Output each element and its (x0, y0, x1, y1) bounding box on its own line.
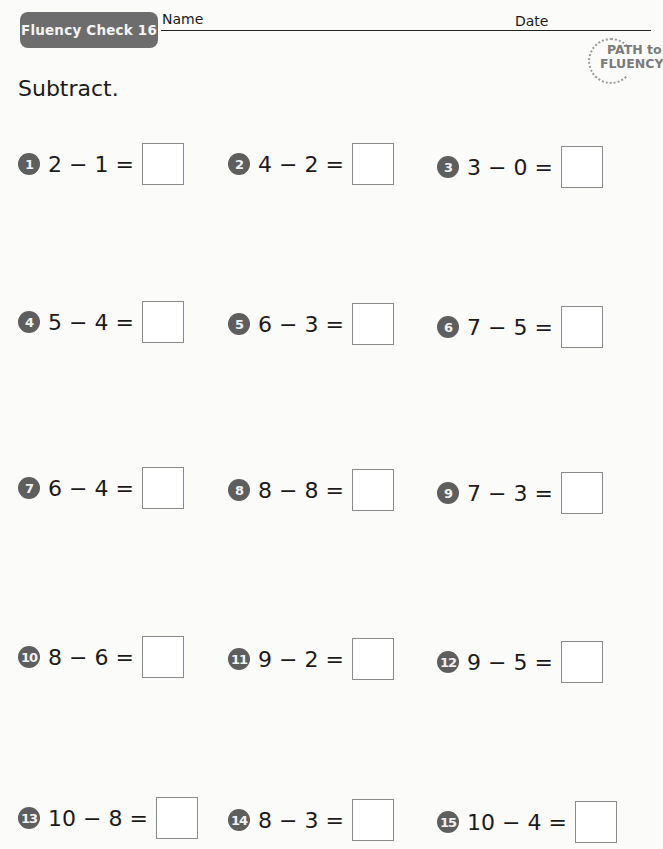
problem-13: 13 10 − 8 = (18, 795, 198, 841)
problem-expression: 6 − 3 = (258, 312, 344, 337)
problem-3: 3 3 − 0 = (437, 144, 603, 190)
answer-box[interactable] (142, 467, 184, 509)
problem-number-badge: 4 (18, 311, 40, 333)
problem-number-badge: 15 (437, 811, 459, 833)
answer-box[interactable] (352, 638, 394, 680)
problem-number-badge: 14 (228, 809, 250, 831)
fluency-check-badge: Fluency Check 16 (20, 12, 158, 48)
problem-14: 14 8 − 3 = (228, 797, 394, 843)
problem-expression: 10 − 8 = (48, 806, 148, 831)
answer-box[interactable] (561, 146, 603, 188)
problem-8: 8 8 − 8 = (228, 467, 394, 513)
name-date-line[interactable] (161, 30, 651, 31)
problem-expression: 7 − 5 = (467, 315, 553, 340)
answer-box[interactable] (156, 797, 198, 839)
answer-box[interactable] (142, 143, 184, 185)
answer-box[interactable] (142, 301, 184, 343)
problem-expression: 4 − 2 = (258, 152, 344, 177)
answer-box[interactable] (561, 641, 603, 683)
path-to-fluency-logo: PATH to FLUENCY (588, 42, 658, 80)
answer-box[interactable] (142, 636, 184, 678)
problem-number-badge: 6 (437, 316, 459, 338)
problem-expression: 8 − 3 = (258, 808, 344, 833)
problem-11: 11 9 − 2 = (228, 636, 394, 682)
problem-expression: 3 − 0 = (467, 155, 553, 180)
problem-expression: 9 − 2 = (258, 647, 344, 672)
problem-expression: 8 − 8 = (258, 478, 344, 503)
problem-5: 5 6 − 3 = (228, 301, 394, 347)
answer-box[interactable] (352, 799, 394, 841)
problem-expression: 5 − 4 = (48, 310, 134, 335)
answer-box[interactable] (352, 469, 394, 511)
problem-4: 4 5 − 4 = (18, 299, 184, 345)
problem-number-badge: 11 (228, 648, 250, 670)
problem-expression: 6 − 4 = (48, 476, 134, 501)
problem-1: 1 2 − 1 = (18, 141, 184, 187)
answer-box[interactable] (352, 143, 394, 185)
problem-expression: 2 − 1 = (48, 152, 134, 177)
problem-number-badge: 7 (18, 477, 40, 499)
date-label: Date (515, 13, 548, 29)
problem-expression: 8 − 6 = (48, 645, 134, 670)
problem-expression: 10 − 4 = (467, 810, 567, 835)
problem-number-badge: 9 (437, 482, 459, 504)
answer-box[interactable] (575, 801, 617, 843)
name-label: Name (162, 11, 203, 27)
problem-6: 6 7 − 5 = (437, 304, 603, 350)
answer-box[interactable] (561, 306, 603, 348)
logo-line-1: PATH to (600, 43, 663, 57)
problem-number-badge: 13 (18, 807, 40, 829)
problem-number-badge: 8 (228, 479, 250, 501)
problem-number-badge: 2 (228, 153, 250, 175)
problem-7: 7 6 − 4 = (18, 465, 184, 511)
problem-15: 15 10 − 4 = (437, 799, 617, 845)
answer-box[interactable] (352, 303, 394, 345)
problem-number-badge: 12 (437, 651, 459, 673)
answer-box[interactable] (561, 472, 603, 514)
problem-expression: 9 − 5 = (467, 650, 553, 675)
problem-9: 9 7 − 3 = (437, 470, 603, 516)
problem-expression: 7 − 3 = (467, 481, 553, 506)
problem-number-badge: 5 (228, 313, 250, 335)
problem-number-badge: 1 (18, 153, 40, 175)
instructions-heading: Subtract. (18, 76, 119, 101)
problem-number-badge: 10 (18, 646, 40, 668)
problem-2: 2 4 − 2 = (228, 141, 394, 187)
problem-number-badge: 3 (437, 156, 459, 178)
problem-12: 12 9 − 5 = (437, 639, 603, 685)
problem-10: 10 8 − 6 = (18, 634, 184, 680)
logo-line-2: FLUENCY (600, 57, 663, 71)
